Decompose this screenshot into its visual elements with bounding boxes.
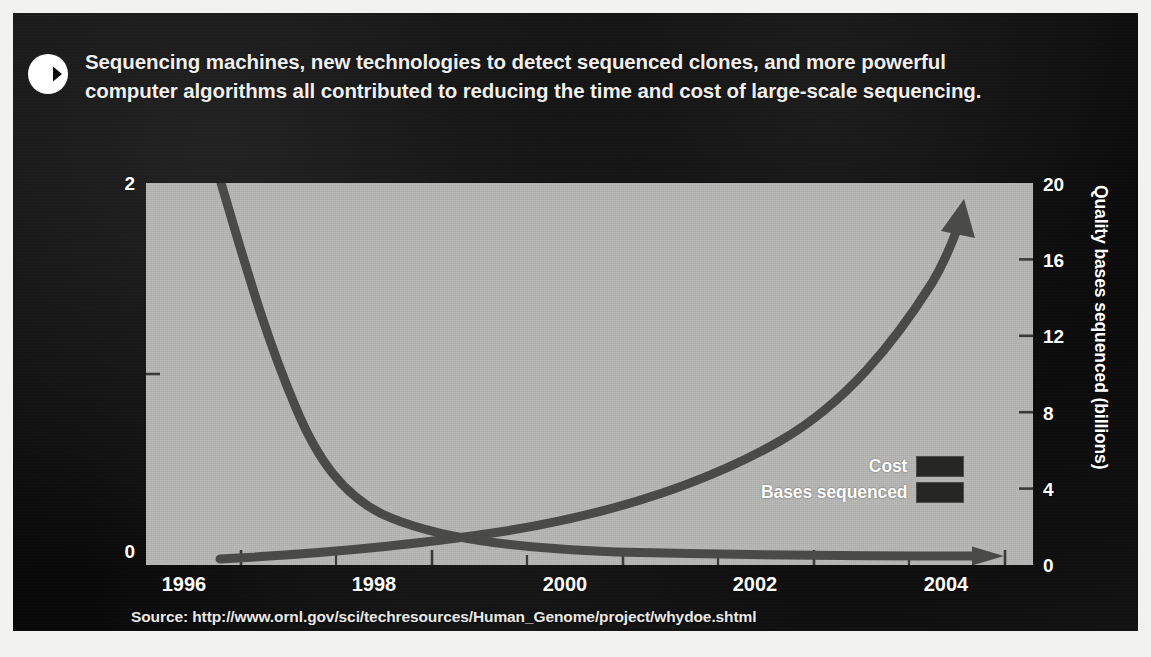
y-right-tick-8: 8: [1043, 403, 1077, 425]
y-right-ticks: [1019, 259, 1033, 488]
series-bases-sequenced: [220, 199, 975, 559]
y-right-tick-20: 20: [1043, 174, 1077, 196]
caption-line-1: Sequencing machines, new technologies to…: [85, 47, 981, 76]
chart-legend: Cost Bases sequenced: [761, 456, 964, 503]
chart-panel: Sequencing machines, new technologies to…: [13, 13, 1138, 631]
x-tick-1996: 1996: [144, 573, 224, 596]
x-tick-2000: 2000: [525, 573, 605, 596]
plot-area: [146, 183, 1033, 565]
caption-line-2: computer algorithms all contributed to r…: [85, 76, 981, 105]
x-tick-1998: 1998: [334, 573, 414, 596]
y-left-tick-2: 2: [101, 173, 135, 195]
figure-root: Sequencing machines, new technologies to…: [0, 0, 1151, 657]
caption-text: Sequencing machines, new technologies to…: [85, 47, 981, 105]
y-left-tick-0: 0: [101, 541, 135, 563]
legend-label-cost: Cost: [869, 456, 908, 477]
x-tick-2004: 2004: [906, 573, 986, 596]
y-right-tick-0: 0: [1043, 555, 1077, 577]
y-right-tick-4: 4: [1043, 479, 1077, 501]
arrow-right-circle-icon: [27, 53, 69, 95]
legend-swatch-cost: [916, 456, 964, 477]
legend-label-bases-sequenced: Bases sequenced: [761, 482, 907, 503]
source-label: Source: http://www.ornl.gov/sci/techreso…: [131, 608, 756, 626]
x-tick-2002: 2002: [715, 573, 795, 596]
y-right-tick-16: 16: [1043, 250, 1077, 272]
legend-item-cost: Cost: [869, 456, 965, 477]
legend-item-bases-sequenced: Bases sequenced: [761, 482, 964, 503]
caption-block: Sequencing machines, new technologies to…: [27, 47, 1117, 105]
plot-svg: [146, 183, 1033, 565]
legend-swatch-bases-sequenced: [916, 482, 964, 503]
y-right-tick-12: 12: [1043, 326, 1077, 348]
y-axis-right-title: Quality bases sequenced (billions): [1090, 185, 1111, 469]
